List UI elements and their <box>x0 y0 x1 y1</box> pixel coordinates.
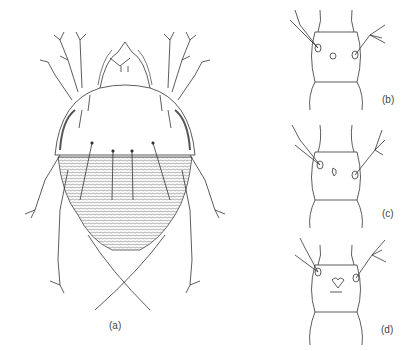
panel-d-segment <box>295 238 386 345</box>
panel-c-segment <box>292 125 385 228</box>
panel-label-d: (d) <box>381 324 393 335</box>
panel-label-a: (a) <box>109 320 121 331</box>
figure-illustration <box>0 0 415 351</box>
panel-a-mite-drawing <box>25 32 225 310</box>
panel-label-b: (b) <box>382 94 394 105</box>
panel-b-segment <box>290 10 385 110</box>
panel-label-c: (c) <box>382 208 394 219</box>
